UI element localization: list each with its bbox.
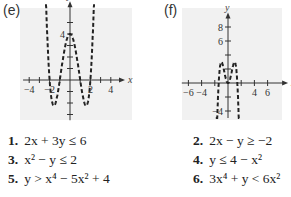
x-tick-label: 6	[265, 87, 270, 98]
y-tick-label: 8	[218, 22, 223, 33]
x-tick-label: −6	[183, 87, 194, 98]
x-axis-arrow	[282, 81, 288, 86]
equation-5: 5.y > x⁴ − 5x² + 4	[8, 169, 110, 188]
equation-list-right: 2.2x − y ≥ −2 4.y ≤ 4 − x² 6.3x⁴ + y < 6…	[193, 131, 280, 188]
equation-6: 6.3x⁴ + y < 6x²	[193, 169, 280, 188]
y-tick-label: 6	[218, 36, 223, 47]
x-tick-label: 4	[252, 87, 257, 98]
x-tick-label: −4	[196, 87, 207, 98]
equation-2: 2.2x − y ≥ −2	[193, 131, 280, 150]
x-axis-label: x	[290, 77, 291, 88]
equation-3: 3.x² − y ≤ 2	[8, 150, 110, 169]
equation-1: 1.2x + 3y ≤ 6	[8, 131, 110, 150]
y-axis-label: y	[224, 2, 230, 13]
shaded-region	[182, 8, 282, 120]
equation-4: 4.y ≤ 4 − x²	[193, 150, 280, 169]
equation-list-left: 1.2x + 3y ≤ 6 3.x² − y ≤ 2 5.y > x⁴ − 5x…	[8, 131, 110, 188]
